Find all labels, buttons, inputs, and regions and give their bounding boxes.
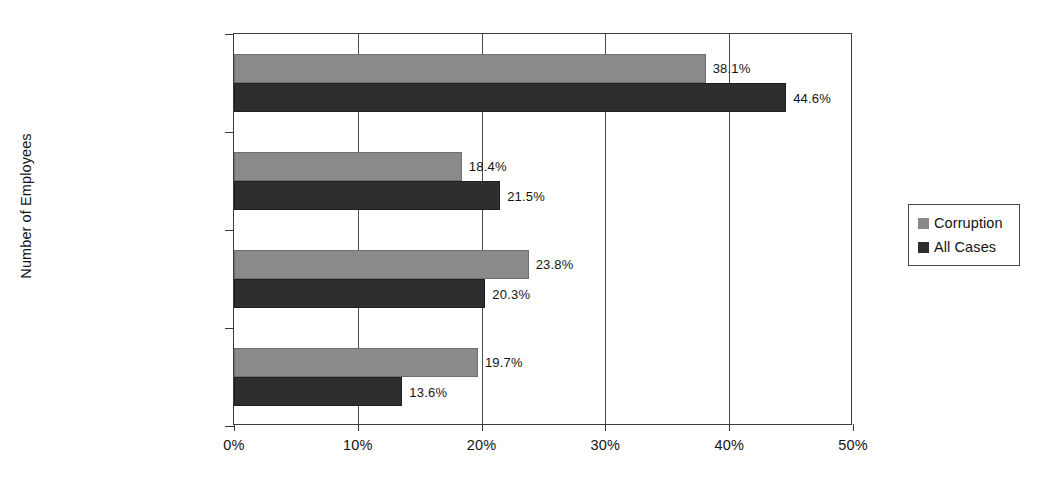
bar-group: 38.1%44.6% — [234, 54, 851, 113]
bar-all-cases: 13.6% — [234, 377, 402, 406]
bar-fill — [234, 250, 529, 279]
y-axis-tick — [225, 132, 234, 133]
bar-corruption: 23.8% — [234, 250, 529, 279]
x-axis-tick — [605, 424, 606, 431]
x-axis-tick — [358, 424, 359, 431]
bar-value-label: 18.4% — [469, 159, 507, 174]
x-axis-tick-label: 30% — [560, 437, 650, 453]
bar-value-label: 38.1% — [713, 61, 751, 76]
bar-group: 19.7%13.6% — [234, 348, 851, 407]
bar-fill — [234, 181, 500, 210]
bar-corruption: 38.1% — [234, 54, 706, 83]
bar-chart-figure: Number of Employees 38.1%44.6%18.4%21.5%… — [0, 0, 1061, 493]
legend-label: All Cases — [934, 239, 996, 255]
x-axis-tick — [234, 424, 235, 431]
legend-entry[interactable]: Corruption — [918, 211, 1019, 235]
bar-all-cases: 21.5% — [234, 181, 500, 210]
x-axis-tick — [482, 424, 483, 431]
y-axis-tick — [225, 34, 234, 35]
bar-value-label: 21.5% — [507, 188, 545, 203]
x-axis-tick-label: 10% — [313, 437, 403, 453]
bar-fill — [234, 348, 478, 377]
bar-group: 23.8%20.3% — [234, 250, 851, 309]
x-axis-tick-label: 50% — [808, 437, 898, 453]
bar-fill — [234, 377, 402, 406]
bar-fill — [234, 279, 485, 308]
bar-value-label: 44.6% — [793, 90, 831, 105]
bar-value-label: 23.8% — [536, 257, 574, 272]
chart-legend: CorruptionAll Cases — [908, 204, 1020, 266]
x-axis-tick-label: 20% — [437, 437, 527, 453]
bar-value-label: 20.3% — [492, 286, 530, 301]
bar-fill — [234, 54, 706, 83]
plot-area: 38.1%44.6%18.4%21.5%23.8%20.3%19.7%13.6%… — [233, 33, 852, 425]
y-axis-tick — [225, 230, 234, 231]
bar-corruption: 19.7% — [234, 348, 478, 377]
bar-value-label: 13.6% — [409, 384, 447, 399]
legend-swatch-icon — [918, 218, 929, 229]
y-axis-tick — [225, 426, 234, 427]
y-axis-tick — [225, 328, 234, 329]
x-axis-tick-label: 40% — [684, 437, 774, 453]
bar-fill — [234, 152, 462, 181]
bar-all-cases: 44.6% — [234, 83, 786, 112]
y-axis-title: Number of Employees — [18, 96, 34, 316]
legend-label: Corruption — [934, 215, 1003, 231]
legend-swatch-icon — [918, 242, 929, 253]
x-axis-tick — [729, 424, 730, 431]
bar-group: 18.4%21.5% — [234, 152, 851, 211]
bar-all-cases: 20.3% — [234, 279, 485, 308]
legend-entry[interactable]: All Cases — [918, 235, 1019, 259]
x-axis-tick-label: 0% — [189, 437, 279, 453]
bar-value-label: 19.7% — [485, 355, 523, 370]
bar-corruption: 18.4% — [234, 152, 462, 181]
x-axis-tick — [853, 424, 854, 431]
bar-fill — [234, 83, 786, 112]
